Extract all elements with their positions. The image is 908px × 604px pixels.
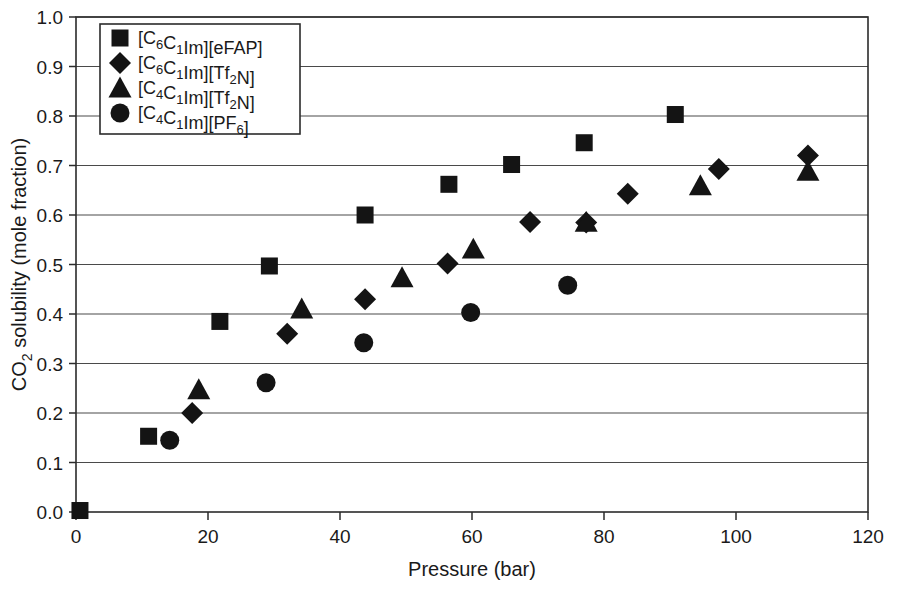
marker-triangle <box>187 378 210 399</box>
y-tick-label: 0.2 <box>37 403 63 424</box>
marker-triangle <box>689 174 712 195</box>
x-tick-label: 40 <box>329 526 350 547</box>
x-tick-label: 60 <box>461 526 482 547</box>
y-tick-label: 0.5 <box>37 255 63 276</box>
marker-circle <box>111 104 130 123</box>
legend: [C6C1Im][eFAP][C6C1Im][Tf2N][C4C1Im][Tf2… <box>100 24 300 138</box>
marker-square <box>667 106 684 123</box>
marker-diamond <box>181 402 203 424</box>
marker-circle <box>558 276 577 295</box>
marker-square <box>357 207 374 224</box>
x-tick-label: 0 <box>71 526 82 547</box>
x-axis-label: Pressure (bar) <box>408 558 536 580</box>
marker-triangle <box>796 160 819 181</box>
x-tick-label: 120 <box>852 526 884 547</box>
marker-circle <box>461 303 480 322</box>
marker-square <box>261 257 278 274</box>
marker-triangle <box>290 298 313 319</box>
marker-square <box>440 176 457 193</box>
marker-diamond <box>519 211 541 233</box>
marker-diamond <box>276 323 298 345</box>
y-axis-label: CO2 solubility (mole fraction) <box>8 138 35 391</box>
scatter-plot: 0.00.10.20.30.40.50.60.70.80.91.0 020406… <box>0 0 908 604</box>
y-tick-label: 0.4 <box>37 304 64 325</box>
marker-diamond <box>617 183 639 205</box>
y-tick-label: 0.7 <box>37 156 63 177</box>
y-tick-label: 0.3 <box>37 354 63 375</box>
marker-triangle <box>462 238 485 259</box>
x-axis-ticks: 020406080100120 <box>71 512 884 547</box>
y-tick-label: 0.1 <box>37 453 63 474</box>
x-tick-label: 80 <box>593 526 614 547</box>
marker-square <box>211 313 228 330</box>
marker-square <box>576 134 593 151</box>
x-tick-label: 100 <box>720 526 752 547</box>
y-tick-label: 1.0 <box>37 7 63 28</box>
y-tick-label: 0.9 <box>37 57 63 78</box>
marker-triangle <box>391 266 414 287</box>
x-tick-label: 20 <box>197 526 218 547</box>
marker-square <box>503 156 520 173</box>
marker-circle <box>354 333 373 352</box>
y-tick-label: 0.0 <box>37 502 63 523</box>
y-axis-ticks: 0.00.10.20.30.40.50.60.70.80.91.0 <box>37 7 76 523</box>
y-tick-label: 0.6 <box>37 205 63 226</box>
marker-diamond <box>708 158 730 180</box>
marker-circle <box>257 373 276 392</box>
figure-container: 0.00.10.20.30.40.50.60.70.80.91.0 020406… <box>0 0 908 604</box>
marker-diamond <box>437 253 459 275</box>
marker-square <box>112 30 129 47</box>
data-points <box>71 106 819 519</box>
series-0 <box>71 106 683 519</box>
series-1 <box>181 145 819 424</box>
marker-diamond <box>354 288 376 310</box>
marker-square <box>71 502 88 519</box>
y-tick-label: 0.8 <box>37 106 63 127</box>
marker-square <box>140 428 157 445</box>
marker-circle <box>160 431 179 450</box>
